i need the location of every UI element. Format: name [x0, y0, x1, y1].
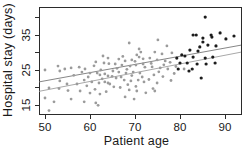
data-point-older-patients-black: [214, 61, 217, 64]
data-point-younger-patients-gray: [153, 90, 156, 93]
data-point-younger-patients-gray: [144, 91, 147, 94]
data-point-younger-patients-gray: [156, 82, 159, 85]
data-point-younger-patients-gray: [57, 65, 60, 68]
data-point-younger-patients-gray: [166, 45, 169, 48]
data-point-younger-patients-gray: [143, 81, 146, 84]
data-point-younger-patients-gray: [105, 90, 108, 93]
data-point-younger-patients-gray: [67, 89, 70, 92]
data-point-younger-patients-gray: [135, 54, 138, 57]
data-point-older-patients-black: [175, 57, 178, 60]
data-point-younger-patients-gray: [129, 65, 132, 68]
data-point-younger-patients-gray: [139, 72, 142, 75]
data-point-younger-patients-gray: [142, 57, 145, 60]
data-point-younger-patients-gray: [72, 74, 75, 77]
data-point-younger-patients-gray: [85, 84, 88, 87]
data-point-younger-patients-gray: [111, 75, 114, 78]
data-point-younger-patients-gray: [115, 77, 118, 80]
data-point-younger-patients-gray: [171, 52, 174, 55]
data-point-younger-patients-gray: [123, 79, 126, 82]
data-point-younger-patients-gray: [148, 57, 151, 60]
data-point-younger-patients-gray: [108, 83, 111, 86]
data-point-younger-patients-gray: [153, 74, 156, 77]
data-point-younger-patients-gray: [96, 72, 99, 75]
data-point-younger-patients-gray: [153, 51, 156, 54]
data-point-younger-patients-gray: [126, 68, 129, 71]
data-point-younger-patients-gray: [161, 53, 164, 56]
data-point-younger-patients-gray: [103, 73, 106, 76]
data-point-younger-patients-gray: [116, 67, 119, 70]
data-point-younger-patients-gray: [164, 60, 167, 63]
data-point-younger-patients-gray: [94, 61, 97, 64]
data-point-younger-patients-gray: [138, 56, 141, 59]
data-point-younger-patients-gray: [108, 62, 111, 65]
data-point-younger-patients-gray: [83, 100, 86, 103]
data-point-younger-patients-gray: [58, 80, 61, 83]
data-point-older-patients-black: [211, 56, 214, 59]
data-point-younger-patients-gray: [97, 104, 100, 107]
data-point-younger-patients-gray: [159, 67, 162, 70]
data-point-younger-patients-gray: [79, 90, 82, 93]
data-point-younger-patients-gray: [107, 57, 110, 60]
data-point-younger-patients-gray: [93, 64, 96, 67]
data-point-younger-patients-gray: [89, 72, 92, 75]
x-axis-title-text: Patient age: [104, 134, 169, 148]
y-axis-title-text: Hospital stay (days): [1, 3, 15, 117]
data-point-younger-patients-gray: [89, 92, 92, 95]
data-point-younger-patients-gray: [128, 42, 131, 45]
data-point-younger-patients-gray: [117, 71, 120, 74]
data-point-older-patients-black: [183, 54, 186, 57]
x-axis-title: Patient age: [0, 134, 245, 148]
y-axis-title: Hospital stay (days): [1, 0, 15, 120]
data-point-younger-patients-gray: [157, 39, 160, 42]
data-point-younger-patients-gray: [130, 80, 133, 83]
data-point-younger-patients-gray: [78, 66, 81, 69]
plot-frame: [39, 7, 241, 114]
data-point-older-patients-black: [192, 33, 195, 36]
data-point-older-patients-black: [195, 33, 198, 36]
x-axis-tick-label: 50: [39, 121, 52, 133]
data-point-younger-patients-gray: [148, 78, 151, 81]
data-point-younger-patients-gray: [117, 58, 120, 61]
x-axis-tick-label: 60: [84, 121, 97, 133]
data-point-younger-patients-gray: [139, 51, 142, 54]
data-point-younger-patients-gray: [162, 63, 165, 66]
data-point-younger-patients-gray: [124, 60, 127, 63]
data-point-younger-patients-gray: [58, 70, 61, 73]
data-point-younger-patients-gray: [125, 72, 128, 75]
y-axis-tick-label: 15: [20, 99, 32, 112]
data-point-older-patients-black: [177, 67, 180, 70]
data-point-older-patients-black: [178, 61, 181, 64]
x-axis-tick-label: 90: [219, 121, 232, 133]
data-point-younger-patients-gray: [83, 79, 86, 82]
data-point-younger-patients-gray: [99, 93, 102, 96]
y-axis-tick-label: 35: [20, 29, 32, 42]
x-axis-tick-label: 80: [174, 121, 187, 133]
data-point-younger-patients-gray: [66, 83, 69, 86]
data-point-younger-patients-gray: [99, 74, 102, 77]
data-point-younger-patients-gray: [103, 62, 106, 65]
data-point-younger-patients-gray: [135, 85, 138, 88]
data-point-older-patients-black: [198, 45, 201, 48]
data-point-younger-patients-gray: [135, 64, 138, 67]
data-point-younger-patients-gray: [70, 67, 73, 70]
data-point-younger-patients-gray: [48, 109, 51, 112]
data-point-younger-patients-gray: [169, 61, 172, 64]
data-point-older-patients-black: [187, 69, 190, 72]
data-point-younger-patients-gray: [150, 62, 153, 65]
data-point-younger-patients-gray: [132, 71, 135, 74]
data-point-younger-patients-gray: [130, 74, 133, 77]
data-point-older-patients-black: [205, 62, 208, 65]
data-point-older-patients-black: [200, 76, 203, 79]
data-point-younger-patients-gray: [175, 65, 178, 68]
data-point-older-patients-black: [201, 37, 204, 40]
data-point-younger-patients-gray: [121, 64, 124, 67]
data-point-younger-patients-gray: [114, 63, 117, 66]
data-point-older-patients-black: [206, 44, 209, 47]
data-point-younger-patients-gray: [138, 48, 141, 51]
data-point-younger-patients-gray: [137, 79, 140, 82]
data-point-younger-patients-gray: [90, 81, 93, 84]
data-point-younger-patients-gray: [44, 97, 47, 100]
data-point-older-patients-black: [180, 53, 183, 56]
data-point-older-patients-black: [191, 67, 194, 70]
data-point-younger-patients-gray: [81, 71, 84, 74]
